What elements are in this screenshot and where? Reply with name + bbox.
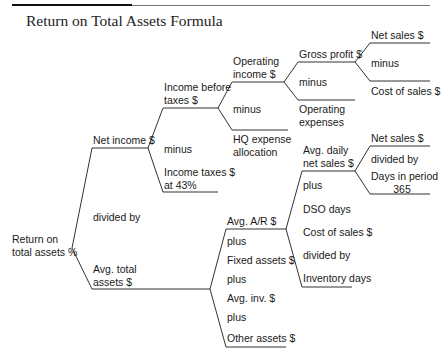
node-label: net sales $ — [303, 157, 354, 170]
node-avg-total-assets: Avg. total assets $ — [93, 263, 137, 288]
node-label: Days in period — [371, 170, 433, 183]
node-label: assets $ — [93, 276, 137, 289]
node-label: Operating — [233, 55, 279, 68]
node-income-taxes: Income taxes $ at 43% — [164, 166, 235, 191]
operator-minus: minus — [164, 143, 192, 156]
node-label: Income before — [164, 81, 231, 94]
node-cost-of-sales: Cost of sales $ — [303, 226, 372, 239]
node-inventory-days: Inventory days — [303, 272, 371, 285]
operator-plus: plus — [227, 311, 246, 324]
node-cost-of-sales: Cost of sales $ — [371, 85, 440, 98]
node-avg-inventory: Avg. inv. $ — [227, 292, 275, 305]
operator-plus: plus — [227, 235, 246, 248]
operator-minus: minus — [233, 103, 261, 116]
node-operating-expenses: Operating expenses — [299, 103, 345, 128]
node-net-income: Net income $ — [93, 134, 155, 147]
node-avg-daily-net-sales: Avg. daily net sales $ — [303, 144, 354, 169]
operator-divided-by: divided by — [303, 249, 350, 262]
node-return-on-total-assets: Return on total assets % — [12, 233, 77, 258]
node-dso-days: DSO days — [303, 203, 351, 216]
node-label: Income taxes $ — [164, 166, 235, 179]
node-avg-ar: Avg. A/R $ — [227, 215, 276, 228]
operator-divided-by: divided by — [93, 211, 140, 224]
node-label: 365 — [371, 183, 433, 196]
node-label: HQ expense — [233, 133, 291, 146]
node-label: Operating — [299, 103, 345, 116]
node-label: Return on — [12, 233, 77, 246]
node-label: expenses — [299, 116, 345, 129]
node-label: total assets % — [12, 246, 77, 259]
node-label: allocation — [233, 146, 291, 159]
node-net-sales: Net sales $ — [371, 132, 424, 145]
node-label: Avg. daily — [303, 144, 354, 157]
operator-divided-by: divided by — [371, 153, 418, 166]
node-operating-income: Operating income $ — [233, 55, 279, 80]
node-fixed-assets: Fixed assets $ — [227, 254, 295, 267]
node-other-assets: Other assets $ — [227, 332, 295, 345]
node-hq-expense-allocation: HQ expense allocation — [233, 133, 291, 158]
node-label: Avg. total — [93, 263, 137, 276]
operator-plus: plus — [303, 179, 322, 192]
node-label: at 43% — [164, 179, 235, 192]
node-net-sales: Net sales $ — [371, 29, 424, 42]
node-gross-profit: Gross profit $ — [299, 48, 362, 61]
node-label: income $ — [233, 68, 279, 81]
node-label: taxes $ — [164, 94, 231, 107]
operator-minus: minus — [371, 57, 399, 70]
node-income-before-taxes: Income before taxes $ — [164, 81, 231, 106]
operator-minus: minus — [299, 76, 327, 89]
node-days-in-period: Days in period 365 — [371, 170, 433, 195]
operator-plus: plus — [227, 273, 246, 286]
